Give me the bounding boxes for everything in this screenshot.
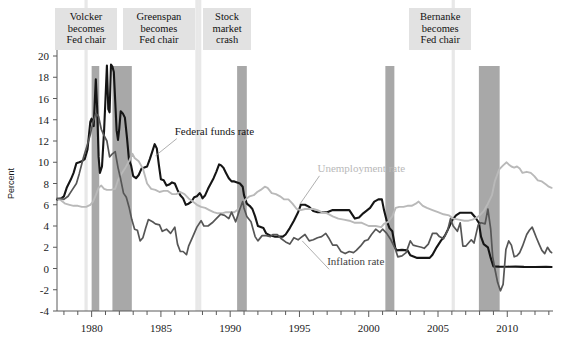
- stock-crash-marker: [198, 0, 201, 311]
- volcker-line-2: becomes: [59, 23, 113, 35]
- stock-crash-annotation-box: Stock market crash: [203, 8, 251, 50]
- bernanke-line-1: Bernanke: [413, 11, 467, 23]
- y-tick-label: -2: [40, 284, 49, 296]
- y-axis-label: Percent: [6, 167, 16, 199]
- x-tick-label: 2010: [496, 322, 519, 334]
- chart-background: [0, 0, 561, 360]
- y-tick-label: 6: [44, 199, 50, 211]
- chart-root: -4-2024681012141618201980198519901995200…: [0, 0, 561, 360]
- y-tick-label: 0: [44, 263, 50, 275]
- volcker-line-3: Fed chair: [59, 34, 113, 46]
- greenspan-annotation-box: Greenspan becomes Fed chair: [123, 8, 195, 50]
- x-tick-label: 1985: [150, 322, 173, 334]
- y-tick-label: 18: [38, 71, 50, 83]
- y-tick-label: 20: [38, 50, 50, 62]
- unemployment-rate-label: Unemployment rate: [317, 162, 405, 174]
- federal-funds-rate-label: Federal funds rate: [175, 125, 255, 137]
- y-tick-label: 12: [38, 135, 49, 147]
- x-tick-label: 1980: [81, 322, 104, 334]
- x-tick-label: 1990: [219, 322, 242, 334]
- inflation-rate-label: Inflation rate: [327, 255, 384, 267]
- bernanke-annotation-box: Bernanke becomes Fed chair: [409, 8, 471, 50]
- x-tick-label: 2005: [427, 322, 450, 334]
- y-tick-label: 16: [38, 93, 50, 105]
- x-tick-label: 2000: [358, 322, 381, 334]
- y-tick-label: 10: [38, 156, 50, 168]
- macro-rates-chart: -4-2024681012141618201980198519901995200…: [0, 0, 561, 360]
- greenspan-line-2: becomes: [127, 23, 191, 35]
- stock-crash-line-1: Stock: [207, 11, 247, 23]
- y-tick-label: 2: [44, 241, 50, 253]
- greenspan-line-1: Greenspan: [127, 11, 191, 23]
- y-tick-label: 4: [44, 220, 50, 232]
- stock-crash-line-2: market: [207, 23, 247, 35]
- bernanke-line-2: becomes: [413, 23, 467, 35]
- y-tick-label: -4: [40, 305, 50, 317]
- x-tick-label: 1995: [288, 322, 311, 334]
- 2001-recession: [385, 66, 394, 311]
- volcker-line-1: Volcker: [59, 11, 113, 23]
- greenspan-line-3: Fed chair: [127, 34, 191, 46]
- stock-crash-line-3: crash: [207, 34, 247, 46]
- y-tick-label: 8: [44, 178, 50, 190]
- greenspan-marker: [195, 0, 198, 311]
- bernanke-line-3: Fed chair: [413, 34, 467, 46]
- y-tick-label: 14: [38, 114, 50, 126]
- volcker-annotation-box: Volcker becomes Fed chair: [55, 8, 117, 50]
